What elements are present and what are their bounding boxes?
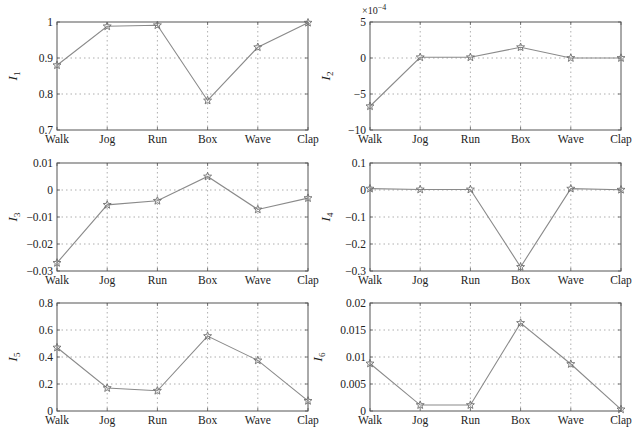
- y-tick-label: 0.01: [33, 157, 53, 169]
- x-tick-label: Clap: [297, 133, 319, 146]
- y-tick-label: 5: [360, 16, 366, 28]
- y-tick-label: 0.015: [340, 324, 366, 336]
- exponent-label: ×10−4: [362, 3, 386, 16]
- x-tick-label: Wave: [558, 274, 584, 286]
- y-tick-label: 0.8: [39, 297, 54, 309]
- data-line: [57, 336, 308, 401]
- data-line: [370, 323, 621, 409]
- x-tick-label: Box: [198, 274, 217, 286]
- y-tick-label: −0.02: [26, 238, 53, 250]
- y-tick-label: 0.2: [39, 378, 54, 390]
- x-tick-label: Wave: [245, 414, 271, 426]
- grid-lines: [57, 22, 308, 130]
- x-tick-label: Walk: [358, 274, 382, 286]
- subplot-i3: −0.03−0.02−0.0100.01WalkJogRunBoxWaveCla…: [5, 157, 319, 287]
- x-tick-label: Jog: [412, 274, 428, 287]
- subplot-i2: −10−505WalkJogRunBoxWaveClapI2×10−4: [318, 3, 632, 146]
- y-tick-label: 0.8: [39, 88, 54, 100]
- y-axis-label: I6: [310, 352, 327, 362]
- axes-box: [370, 22, 621, 130]
- x-tick-label: Run: [148, 133, 167, 145]
- y-axis-label: I1: [5, 72, 22, 82]
- axes-box: [370, 163, 621, 271]
- data-line: [370, 47, 621, 106]
- x-tick-label: Walk: [358, 414, 382, 426]
- data-line: [370, 189, 621, 267]
- y-tick-label: 0.02: [346, 297, 366, 309]
- y-tick-label: −0.2: [345, 238, 366, 250]
- axes-box: [57, 303, 308, 411]
- x-tick-label: Wave: [245, 133, 271, 145]
- y-tick-label: 0.01: [346, 351, 366, 363]
- x-tick-label: Run: [148, 274, 167, 286]
- x-tick-label: Box: [511, 414, 530, 426]
- subplot-i4: −0.3−0.2−0.100.1WalkJogRunBoxWaveClapI4: [318, 157, 632, 287]
- y-tick-label: 0: [47, 184, 53, 196]
- x-tick-label: Walk: [45, 133, 69, 145]
- x-tick-label: Run: [461, 133, 480, 145]
- grid-lines: [57, 303, 308, 411]
- x-tick-label: Run: [461, 274, 480, 286]
- x-tick-label: Jog: [99, 414, 115, 427]
- y-tick-label: 0.9: [39, 52, 54, 64]
- y-axis-label: I5: [5, 352, 22, 362]
- grid-lines: [370, 22, 621, 130]
- y-tick-label: 0.6: [39, 324, 54, 336]
- y-tick-label: −5: [354, 88, 366, 100]
- x-tick-label: Box: [511, 274, 530, 286]
- subplot-i6: 00.0050.010.0150.02WalkJogRunBoxWaveClap…: [310, 297, 632, 427]
- x-tick-label: Clap: [610, 133, 632, 146]
- x-tick-label: Jog: [99, 133, 115, 146]
- grid-lines: [370, 163, 621, 271]
- x-tick-label: Clap: [610, 274, 632, 287]
- chart-canvas: 0.70.80.91WalkJogRunBoxWaveClapI1−10−505…: [0, 0, 638, 434]
- y-tick-label: 1: [47, 16, 53, 28]
- subplot-i5: 00.20.40.60.8WalkJogRunBoxWaveClapI5: [5, 297, 319, 427]
- y-tick-label: −0.01: [26, 211, 53, 223]
- x-tick-label: Box: [511, 133, 530, 145]
- y-tick-label: 0: [360, 52, 366, 64]
- x-tick-label: Box: [198, 414, 217, 426]
- subplot-i1: 0.70.80.91WalkJogRunBoxWaveClapI1: [5, 16, 319, 146]
- y-axis-label: I4: [318, 212, 335, 222]
- x-tick-label: Walk: [45, 274, 69, 286]
- data-line: [57, 177, 308, 263]
- data-line: [57, 23, 308, 101]
- y-axis-label: I3: [5, 212, 22, 222]
- y-tick-label: 0.4: [39, 351, 54, 363]
- x-tick-label: Walk: [358, 133, 382, 145]
- x-tick-label: Clap: [610, 414, 632, 427]
- x-tick-label: Run: [461, 414, 480, 426]
- x-tick-label: Jog: [99, 274, 115, 287]
- y-axis-label: I2: [318, 72, 335, 82]
- y-tick-label: −0.1: [345, 211, 366, 223]
- y-tick-label: 0: [360, 184, 366, 196]
- x-tick-label: Wave: [558, 414, 584, 426]
- x-tick-label: Clap: [297, 414, 319, 427]
- y-tick-label: 0.005: [340, 378, 366, 390]
- x-tick-label: Jog: [412, 133, 428, 146]
- axes-box: [57, 22, 308, 130]
- x-tick-label: Wave: [558, 133, 584, 145]
- x-tick-label: Clap: [297, 274, 319, 287]
- y-tick-label: 0.1: [352, 157, 367, 169]
- x-tick-label: Jog: [412, 414, 428, 427]
- x-tick-label: Walk: [45, 414, 69, 426]
- x-tick-label: Wave: [245, 274, 271, 286]
- axes-box: [57, 163, 308, 271]
- x-tick-label: Box: [198, 133, 217, 145]
- x-tick-label: Run: [148, 414, 167, 426]
- figure-grid: 0.70.80.91WalkJogRunBoxWaveClapI1−10−505…: [0, 0, 638, 434]
- grid-lines: [57, 163, 308, 271]
